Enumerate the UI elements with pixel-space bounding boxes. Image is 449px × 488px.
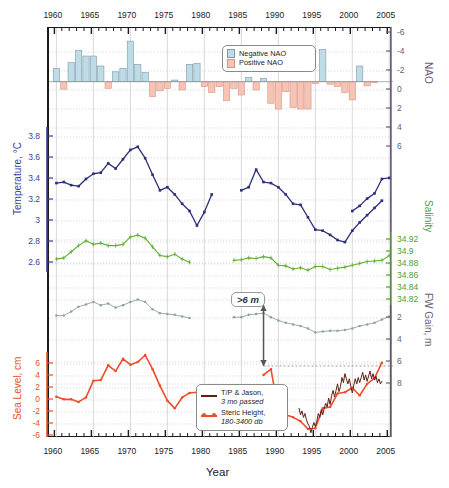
legend-sublabel: 3 mo passed [221,397,263,406]
legend-item-tp-jason: T/P & Jason, 3 mo passed [201,388,282,407]
square-swatch-icon [227,49,235,58]
legend-item-negative-nao: Negative NAO [227,49,310,58]
legend-label: T/P & Jason, [221,388,263,397]
legend-label: Positive NAO [239,58,283,67]
legend-sea-level: T/P & Jason, 3 mo passed Steric Height, … [196,384,288,431]
square-swatch-icon [227,59,235,68]
legend-sublabel: 180-3400 db [221,417,265,426]
line-marker-swatch-icon [201,412,217,420]
legend-item-positive-nao: Positive NAO [227,58,310,67]
line-swatch-icon [201,392,217,400]
figure-root: 1960196519701975198019851990199520002005… [0,0,449,488]
legend-label: Steric Height, [221,408,265,417]
legend-label: Negative NAO [239,49,286,58]
legend-item-steric-height: Steric Height, 180-3400 db [201,408,282,427]
annotation-gt6m-label: >6 m [231,292,265,307]
legend-nao: Negative NAO Positive NAO [222,45,316,72]
